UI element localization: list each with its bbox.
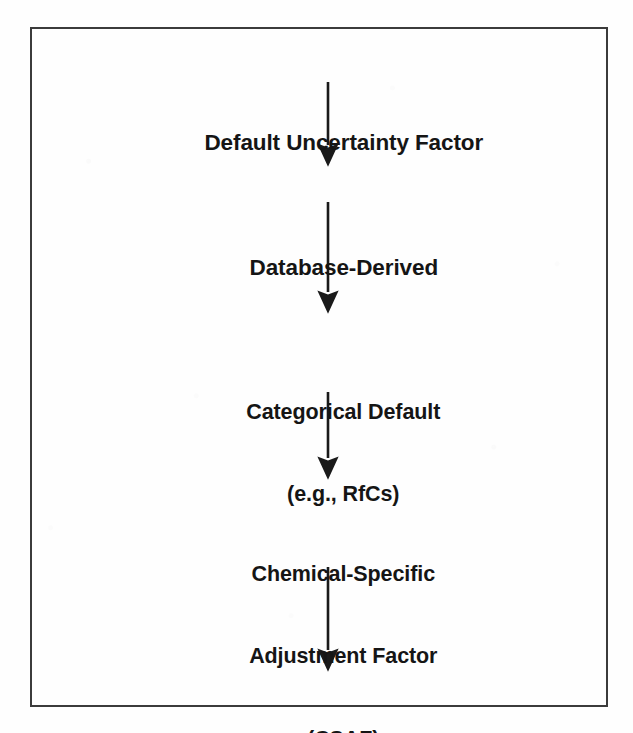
- figure-root: Default Uncertainty Factor Database-Deri…: [0, 0, 633, 733]
- node-label-line: Default Uncertainty Factor: [204, 129, 483, 158]
- node-label-line: Database-Derived: [250, 254, 439, 283]
- node-label-line: Chemical-Specific: [249, 561, 437, 589]
- node-label-line: Categorical Default: [246, 399, 440, 427]
- flow-node-bbdr: Biologically-Based Dose-Response Model (…: [0, 664, 633, 733]
